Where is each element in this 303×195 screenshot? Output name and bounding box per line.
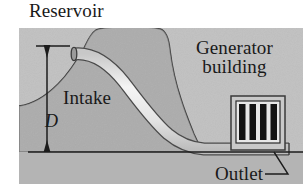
depth-symbol-label: D: [45, 112, 58, 130]
window-bar: [239, 104, 246, 140]
outlet-label: Outlet: [215, 164, 263, 183]
window-bar: [271, 104, 278, 140]
intake-label: Intake: [63, 88, 111, 107]
window-bar: [250, 104, 257, 140]
generator-building-label: Generator building: [196, 38, 273, 77]
generator-label-line1: Generator: [196, 37, 273, 58]
hydroelectric-diagram: Reservoir Generator building Intake D Ou…: [0, 0, 303, 195]
window-bar: [260, 104, 267, 140]
reservoir-label: Reservoir: [29, 1, 104, 20]
intake-mouth: [71, 47, 77, 60]
generator-label-line2: building: [196, 57, 273, 76]
